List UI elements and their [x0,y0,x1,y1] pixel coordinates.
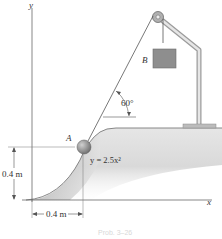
pulley [153,12,164,23]
rope [88,16,153,141]
ball-a [77,140,91,154]
base-plate [183,124,216,128]
ground-surface [26,128,222,205]
y-axis-label: y [28,0,33,10]
physics-diagram: y x B 60° A y = 2.5x² 0.4 m [0,0,222,239]
block-b-label: B [142,55,148,65]
figure-caption: Prob. 3–26 [98,229,132,236]
diagram-canvas: y x B 60° A y = 2.5x² 0.4 m [0,0,222,239]
block-b [153,49,176,68]
vertical-dimension-label: 0.4 m [2,169,23,179]
angle-indicator: 60° [103,91,136,117]
ball-a-label: A [65,133,72,143]
curve-equation: y = 2.5x² [90,155,121,165]
angle-label: 60° [121,98,134,108]
support-frame [158,17,216,128]
vertical-dimension: 0.4 m [1,147,32,200]
x-axis-label: x [206,197,211,207]
horizontal-dimension-label: 0.4 m [46,209,67,219]
